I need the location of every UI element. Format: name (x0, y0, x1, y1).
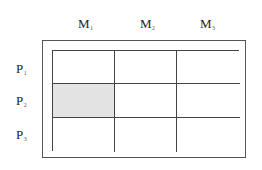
column-label-m2: M2 (140, 17, 155, 31)
cell-p2-m1-shaded (53, 84, 115, 118)
row-label-p2-sub: 2 (24, 102, 27, 108)
cell-p1-m2 (115, 51, 177, 84)
row-label-p2-text: P (16, 93, 23, 108)
column-label-m2-text: M (140, 16, 152, 31)
row-label-p3-sub: 3 (24, 136, 27, 142)
row-label-p2: P2 (16, 94, 27, 108)
column-label-m1-text: M (78, 16, 90, 31)
cell-p1-m1 (53, 51, 115, 84)
row-label-p1-text: P (16, 61, 23, 76)
cell-p3-m3 (177, 118, 240, 152)
cell-p3-m2 (115, 118, 177, 152)
column-label-m2-sub: 2 (152, 25, 155, 31)
column-label-m3-sub: 3 (212, 25, 215, 31)
column-label-m1: M1 (78, 17, 93, 31)
column-label-m3-text: M (200, 16, 212, 31)
row-label-p1-sub: 1 (24, 70, 27, 76)
cell-p3-m1 (53, 118, 115, 152)
row-label-p1: P1 (16, 62, 27, 76)
column-label-m3: M3 (200, 17, 215, 31)
row-label-p3: P3 (16, 128, 27, 142)
cell-p1-m3 (177, 51, 240, 84)
row-label-p3-text: P (16, 127, 23, 142)
cell-p2-m2 (115, 84, 177, 118)
cell-p2-m3 (177, 84, 240, 118)
column-label-m1-sub: 1 (90, 25, 93, 31)
matrix-grid (52, 50, 239, 151)
